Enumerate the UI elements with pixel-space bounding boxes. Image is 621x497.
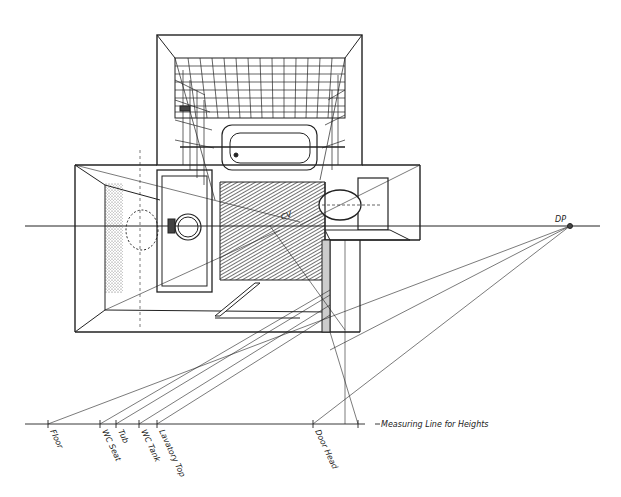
lavatory-sink [175, 214, 201, 240]
dp-label: DP [555, 215, 566, 224]
main-room [75, 165, 420, 332]
tick-label-door-head: Door Head [313, 428, 340, 471]
floor-hatch [220, 182, 325, 280]
tick-label-floor: Floor [48, 428, 65, 450]
wall-tile-stipple [105, 183, 123, 293]
toilet [319, 178, 388, 230]
tick-label-tub: Tub [116, 428, 130, 445]
dp-point [568, 224, 573, 229]
perspective-drawing: DP CV Measuring Line for Heights Floor W… [0, 0, 621, 497]
tub-drain [234, 153, 238, 157]
measuring-line-label: Measuring Line for Heights [381, 420, 489, 429]
mirror-reflection [126, 210, 158, 250]
shower-head [180, 106, 190, 111]
tick-label-lavatory-top: Lavatory Top [157, 428, 187, 478]
tub-alcove [157, 35, 362, 200]
